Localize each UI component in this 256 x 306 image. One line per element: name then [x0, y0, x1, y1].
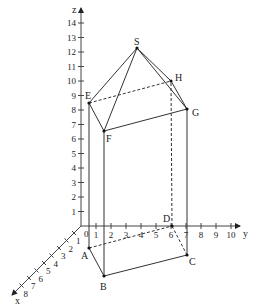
edge-GH — [171, 81, 187, 109]
z-tick-13: 13 — [67, 33, 77, 43]
vertex-H — [169, 79, 172, 82]
y-axis-label: y — [243, 228, 248, 239]
x-tick-6: 6 — [39, 274, 44, 284]
x-tick-7: 7 — [31, 281, 36, 291]
z-tick-3: 3 — [72, 178, 77, 188]
x-tick-8: 8 — [24, 289, 29, 299]
vertices — [87, 46, 188, 277]
x-tick-4: 4 — [54, 259, 59, 269]
y-tick-6: 6 — [169, 230, 174, 240]
edge-AB — [89, 248, 104, 276]
edge-AD — [89, 226, 172, 248]
vertex-G — [185, 107, 188, 110]
y-tick-2: 2 — [109, 230, 114, 240]
z-axis-label: z — [72, 4, 77, 15]
vertex-B — [102, 274, 105, 277]
diagram-canvas: 1 2 3 4 5 6 7 8 9 10 11 12 13 14 z — [0, 0, 256, 306]
label-F: F — [106, 133, 112, 144]
y-tick-10: 10 — [227, 230, 237, 240]
y-tick-7: 7 — [184, 230, 189, 240]
z-tick-5: 5 — [72, 149, 77, 159]
x-tick-2: 2 — [69, 244, 74, 254]
y-tick-9: 9 — [214, 230, 219, 240]
z-tick-14: 14 — [67, 18, 77, 28]
z-axis: 1 2 3 4 5 6 7 8 9 10 11 12 13 14 z — [67, 4, 84, 226]
edge-ES — [89, 48, 137, 103]
vertex-E — [87, 101, 90, 104]
visible-edges — [89, 48, 187, 276]
z-tick-11: 11 — [67, 62, 76, 72]
y-tick-8: 8 — [199, 230, 204, 240]
z-tick-8: 8 — [72, 105, 77, 115]
z-tick-7: 7 — [72, 120, 77, 130]
edge-EH — [89, 81, 171, 103]
y-axis: 1 2 3 4 5 6 7 8 9 10 y — [81, 223, 248, 240]
edge-DH — [171, 81, 172, 226]
z-tick-10: 10 — [67, 76, 77, 86]
label-S: S — [134, 36, 140, 47]
edge-EF — [89, 103, 104, 131]
label-G: G — [192, 107, 199, 118]
y-tick-5: 5 — [154, 230, 159, 240]
z-tick-2: 2 — [72, 192, 77, 202]
y-tick-1: 1 — [94, 230, 99, 240]
edge-FS — [104, 48, 137, 131]
x-tick-5: 5 — [46, 266, 51, 276]
z-tick-6: 6 — [72, 134, 77, 144]
edge-BC — [104, 255, 187, 276]
origin-label: 0 — [84, 229, 89, 239]
z-tick-1: 1 — [72, 207, 77, 217]
label-A: A — [81, 250, 89, 261]
label-D: D — [163, 213, 170, 224]
z-tick-12: 12 — [67, 47, 76, 57]
x-tick-1: 1 — [76, 236, 81, 246]
vertex-labels: A B C D E F G H S — [81, 36, 199, 292]
vertex-D — [170, 224, 173, 227]
label-C: C — [189, 256, 196, 267]
z-tick-4: 4 — [72, 163, 77, 173]
z-tick-9: 9 — [72, 91, 77, 101]
label-E: E — [85, 90, 91, 101]
label-H: H — [175, 72, 182, 83]
edge-FG — [104, 109, 187, 131]
edge-HS — [137, 48, 171, 81]
x-axis: 1 2 3 4 5 6 7 8 x 0 — [12, 226, 89, 306]
x-axis-label: x — [15, 295, 20, 306]
label-B: B — [100, 281, 107, 292]
x-tick-3: 3 — [61, 251, 66, 261]
